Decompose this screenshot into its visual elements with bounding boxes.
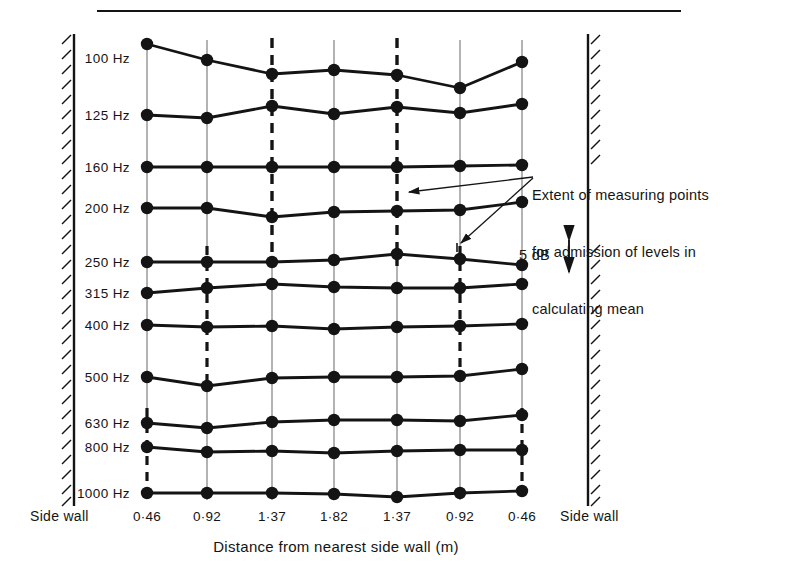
band-label-250hz: 250 Hz: [8, 255, 130, 270]
band-label-200hz: 200 Hz: [8, 201, 130, 216]
band-label-100hz: 100 Hz: [8, 51, 130, 66]
xtick-7: 0·46: [508, 509, 536, 524]
annotation-leader-arrows: [409, 177, 533, 252]
right-side-wall-label: Side wall: [560, 508, 619, 524]
figure-canvas: 100 Hz 125 Hz 160 Hz 200 Hz 250 Hz 315 H…: [0, 0, 787, 574]
xtick-1: 0·46: [133, 509, 161, 524]
xtick-6: 0·92: [446, 509, 474, 524]
left-side-wall-label: Side wall: [30, 508, 89, 524]
band-label-400hz: 400 Hz: [8, 318, 130, 333]
xtick-3: 1·37: [258, 509, 286, 524]
band-label-125hz: 125 Hz: [8, 108, 130, 123]
x-axis-title: Distance from nearest side wall (m): [213, 538, 459, 555]
annotation-line-2: for admission of levels in: [532, 243, 709, 262]
xtick-2: 0·92: [193, 509, 221, 524]
band-label-630hz: 630 Hz: [8, 416, 130, 431]
xtick-5: 1·37: [383, 509, 411, 524]
xtick-4: 1·82: [320, 509, 348, 524]
annotation-line-1: Extent of measuring points: [532, 186, 709, 205]
band-label-500hz: 500 Hz: [8, 370, 130, 385]
band-label-315hz: 315 Hz: [8, 286, 130, 301]
leader-arrow-upper: [409, 177, 533, 192]
left-side-wall: [62, 34, 74, 506]
band-label-800hz: 800 Hz: [8, 440, 130, 455]
annotation-block: Extent of measuring points for admission…: [532, 148, 709, 357]
band-label-160hz: 160 Hz: [8, 160, 130, 175]
band-label-1000hz: 1000 Hz: [8, 486, 130, 501]
annotation-line-3: calculating mean: [532, 300, 709, 319]
scale-bar-label: 5 dB: [519, 247, 550, 263]
